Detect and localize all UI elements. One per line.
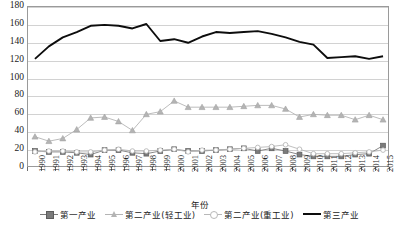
data-point xyxy=(200,148,205,153)
data-point xyxy=(33,150,38,155)
data-point xyxy=(242,146,247,151)
y-axis-tick-label: 80 xyxy=(0,90,24,100)
legend-label: 第二产业(重工业) xyxy=(224,208,294,220)
data-point xyxy=(144,149,149,154)
y-axis-tick-label: 160 xyxy=(0,19,24,29)
y-axis: 020406080100120140160180 xyxy=(0,0,27,167)
legend-item: 第二产业(重工业) xyxy=(204,208,294,220)
chart-container: 020406080100120140160180 199019911992199… xyxy=(0,0,399,237)
x-axis-tick-label: 1995 xyxy=(108,155,117,172)
legend-label: 第二产业(轻工业) xyxy=(125,208,195,220)
legend-item: 第二产业(轻工业) xyxy=(105,208,195,220)
legend-marker-icon xyxy=(40,210,58,218)
legend-label: 第一产业 xyxy=(60,208,96,220)
x-axis-tick-label: 2001 xyxy=(191,155,200,172)
data-point xyxy=(88,150,93,155)
legend-symbol-icon xyxy=(210,211,218,219)
y-axis-tick-label: 120 xyxy=(0,55,24,65)
legend-item: 第三产业 xyxy=(303,208,359,220)
x-axis-tick-label: 1990 xyxy=(38,155,47,172)
legend-marker-icon xyxy=(303,210,321,218)
data-point xyxy=(186,150,191,155)
x-axis-tick-label: 1991 xyxy=(52,155,61,172)
legend-symbol-icon xyxy=(46,211,54,219)
x-axis-tick-label: 2005 xyxy=(247,155,256,172)
data-point xyxy=(255,145,260,150)
x-axis-tick-label: 1999 xyxy=(163,155,172,172)
data-point xyxy=(158,148,163,153)
y-axis-tick-label: 180 xyxy=(0,1,24,11)
data-point xyxy=(269,144,274,149)
x-axis-tick-label: 2015 xyxy=(386,155,395,172)
data-point xyxy=(130,149,135,154)
y-axis-tick-label: 40 xyxy=(0,126,24,136)
figure-caption xyxy=(0,225,399,237)
legend-item: 第一产业 xyxy=(40,208,96,220)
x-axis-tick-label: 2006 xyxy=(261,155,270,172)
data-point xyxy=(47,149,52,154)
x-axis-tick-label: 2004 xyxy=(233,155,242,172)
legend-line xyxy=(303,213,321,215)
y-axis-tick-label: 140 xyxy=(0,37,24,47)
legend-symbol-icon xyxy=(111,211,117,217)
data-point xyxy=(171,98,177,103)
x-axis-tick-label: 1992 xyxy=(66,155,75,172)
plot-area xyxy=(27,6,389,167)
data-point xyxy=(297,147,302,152)
data-point xyxy=(32,134,38,139)
data-point xyxy=(60,135,66,140)
data-point xyxy=(366,112,372,117)
series-3 xyxy=(35,24,383,59)
data-point xyxy=(228,147,233,152)
data-point xyxy=(367,150,372,155)
x-axis: 1990199119921993199419951996199719981999… xyxy=(27,167,389,201)
y-axis-tick-label: 60 xyxy=(0,108,24,118)
x-axis-tick-label: 2007 xyxy=(275,155,284,172)
data-point xyxy=(172,147,177,152)
data-point xyxy=(61,149,66,154)
x-axis-tick-label: 1994 xyxy=(94,155,103,172)
chart-legend: 第一产业第二产业(轻工业)第二产业(重工业)第三产业 xyxy=(0,207,399,221)
x-axis-tick-label: 2002 xyxy=(205,155,214,172)
x-axis-tick xyxy=(27,167,28,171)
data-point xyxy=(283,149,288,154)
legend-label: 第三产业 xyxy=(323,208,359,220)
data-point xyxy=(381,143,386,148)
data-point xyxy=(157,109,163,114)
data-point xyxy=(381,148,386,153)
x-axis-tick-label: 1998 xyxy=(149,155,158,172)
x-axis-tick-label: 1997 xyxy=(135,155,144,172)
x-axis-tick-label: 2000 xyxy=(177,155,186,172)
data-point xyxy=(116,147,121,152)
y-axis-tick-label: 100 xyxy=(0,73,24,83)
series-lines xyxy=(28,7,390,168)
x-axis-tick-label: 2003 xyxy=(219,155,228,172)
x-axis-tick-label: 2008 xyxy=(289,155,298,172)
x-axis-tick-label: 2013 xyxy=(358,155,367,172)
series-1 xyxy=(32,98,386,144)
data-point xyxy=(283,142,288,147)
x-axis-tick-label: 2009 xyxy=(303,155,312,172)
x-axis-tick-label: 2010 xyxy=(316,155,325,172)
data-point xyxy=(214,148,219,153)
x-axis-tick-label: 2011 xyxy=(330,155,339,172)
y-axis-tick-label: 20 xyxy=(0,144,24,154)
legend-marker-icon xyxy=(105,210,123,218)
data-point xyxy=(102,148,107,153)
x-axis-tick-label: 1993 xyxy=(80,155,89,172)
x-axis-tick-label: 1996 xyxy=(122,155,131,172)
y-axis-tick-label: 0 xyxy=(0,162,24,172)
data-point xyxy=(74,150,79,155)
x-axis-tick-label: 2012 xyxy=(344,155,353,172)
x-axis-tick-label: 2014 xyxy=(372,155,381,172)
legend-marker-icon xyxy=(204,210,222,218)
